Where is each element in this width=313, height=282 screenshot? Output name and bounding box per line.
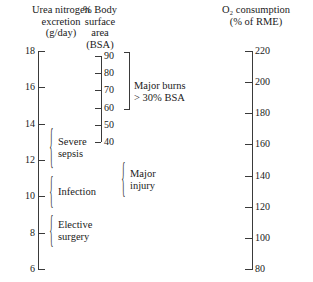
urea-tick-label: 12 (1, 155, 35, 165)
bsa-tick (95, 73, 101, 74)
o2-tick (245, 238, 252, 239)
bsa-column-header: % Body surface area (BSA) (62, 4, 138, 50)
o2-tick-label: 200 (255, 77, 289, 87)
o2-tick-label: 140 (255, 171, 289, 181)
urea-tick-label: 8 (1, 228, 35, 238)
bsa-tick (95, 125, 101, 126)
urea-tick-label: 16 (1, 82, 35, 92)
bsa-tick-label: 50 (104, 120, 138, 130)
o2-tick (245, 269, 252, 270)
major-burns-label: Major burns > 30% BSA (134, 80, 224, 103)
o2-tick-label: 80 (255, 264, 289, 274)
severe-sepsis-brace: { (46, 124, 56, 172)
o2-tick (245, 144, 252, 145)
bsa-tick-label: 60 (104, 103, 138, 113)
severe-sepsis-label: Severe sepsis (58, 136, 118, 159)
o2-axis-line (252, 51, 253, 269)
elective-surgery-brace: { (46, 212, 56, 249)
o2-column-header: O₂ consumption (% of RME) (200, 4, 312, 27)
bsa-tick (95, 90, 101, 91)
infection-label: Infection (58, 186, 120, 198)
urea-tick-label: 18 (1, 46, 35, 56)
o2-tick-label: 100 (255, 233, 289, 243)
urea-tick (38, 196, 45, 197)
urea-tick (38, 124, 45, 125)
o2-tick (245, 51, 252, 52)
o2-tick (245, 176, 252, 177)
o2-tick-label: 220 (255, 46, 289, 56)
bsa-tick (95, 108, 101, 109)
o2-tick-label: 160 (255, 139, 289, 149)
o2-tick (245, 207, 252, 208)
bsa-tick (95, 56, 101, 57)
urea-tick (38, 51, 45, 52)
urea-tick (38, 87, 45, 88)
o2-tick-label: 180 (255, 108, 289, 118)
bsa-tick-label: 80 (104, 68, 138, 78)
urea-tick (38, 160, 45, 161)
o2-tick (245, 82, 252, 83)
urea-tick-label: 10 (1, 191, 35, 201)
infection-brace: { (46, 173, 56, 210)
urea-tick-label: 6 (1, 264, 35, 274)
bsa-tick-label: 90 (104, 51, 138, 61)
elective-surgery-label: Elective surgery (58, 219, 124, 242)
urea-tick (38, 233, 45, 234)
urea-tick (38, 269, 45, 270)
o2-tick (245, 113, 252, 114)
bsa-axis-line (101, 56, 102, 142)
o2-tick-label: 120 (255, 202, 289, 212)
urea-tick-label: 14 (1, 119, 35, 129)
bsa-tick-label: 70 (104, 85, 138, 95)
major-burns-bracket (124, 52, 130, 110)
nomogram-figure: Urea nitrogen excretion (g/day) % Body s… (0, 0, 313, 282)
major-injury-label: Major injury (130, 168, 190, 191)
